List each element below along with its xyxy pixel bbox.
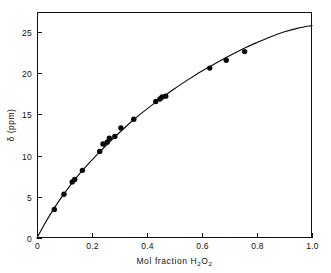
data-point [52,207,57,212]
y-tick-label: 15 [22,110,32,120]
x-tick-label: 0 [35,241,40,251]
data-point [112,134,117,139]
x-tick-label: 0.2 [86,241,99,251]
x-tick-label: 1.0 [306,241,319,251]
x-axis-title: Mol fraction H2O2 [136,256,212,267]
data-point [107,136,112,141]
x-tick-label: 0.4 [141,241,154,251]
data-point [163,93,168,98]
y-tick-label: 20 [22,69,32,79]
x-tick-label: 0.6 [196,241,209,251]
data-point [118,125,123,130]
figure-container: 00.20.40.60.81.0 0510152025 Mol fraction… [0,0,331,273]
y-tick-label: 5 [27,193,32,203]
y-tick-label: 25 [22,28,32,38]
data-point [131,117,136,122]
y-tick-label: 10 [22,152,32,162]
y-tick-label: 0 [27,234,32,244]
data-point [224,58,229,63]
data-point [97,149,102,154]
chart-background [0,0,331,273]
x-tick-label: 0.8 [251,241,264,251]
data-point [207,65,212,70]
data-point [80,168,85,173]
data-point [242,49,247,54]
data-point [61,192,66,197]
scatter-chart: 00.20.40.60.81.0 0510152025 Mol fraction… [0,0,331,273]
y-axis-title: δ (ppm) [6,109,16,142]
data-point [72,177,77,182]
